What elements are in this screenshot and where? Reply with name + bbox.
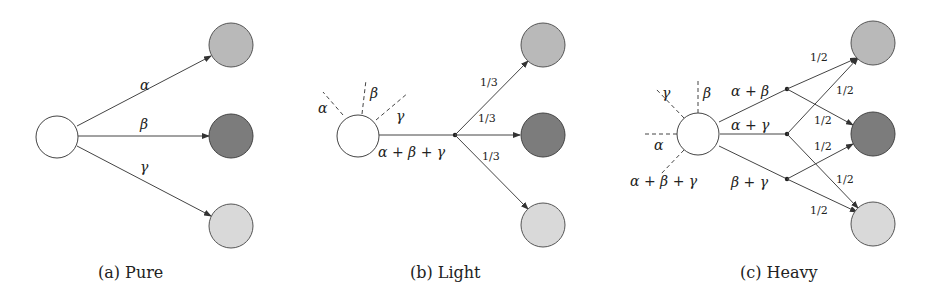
target-node-3 [521, 203, 565, 247]
merged-label: α + β + γ [378, 144, 446, 160]
panel-heavy: γ β α α + β + γ α + β α + γ β + γ 1/2 1/… [630, 21, 895, 282]
split-edge-3 [455, 135, 528, 209]
target-node-3 [851, 202, 895, 246]
split-label-4: 1/2 [814, 140, 832, 153]
dashed-in-beta [362, 80, 366, 114]
source-node [36, 116, 78, 158]
source-node [337, 115, 379, 157]
split-label-2: 1/2 [836, 84, 854, 97]
panel-pure: α β γ (a) Pure [36, 23, 253, 282]
caption-pure: (a) Pure [98, 263, 163, 282]
diagram-canvas: α β γ (a) Pure α β γ α + β + γ 1/3 1/3 1… [0, 0, 934, 308]
merged-label-bg: β + γ [730, 174, 769, 190]
target-node-3 [209, 204, 253, 248]
split-label-6: 1/2 [810, 204, 828, 217]
target-node-1 [209, 23, 253, 67]
dashed-label-gamma: γ [662, 85, 671, 101]
source-node [677, 113, 719, 155]
split-label-1: 1/2 [810, 51, 828, 64]
merged-label-ab: α + β [731, 83, 769, 99]
split-label-2: 1/3 [478, 112, 496, 125]
dashed-label-beta: β [702, 85, 711, 101]
split-label-1: 1/3 [480, 76, 498, 89]
dashed-label-alpha: α [654, 137, 664, 153]
edge-label-alpha: α [140, 77, 150, 93]
target-node-1 [851, 21, 895, 65]
target-node-2 [851, 112, 895, 156]
caption-light: (b) Light [410, 263, 481, 282]
edge-label-gamma: γ [140, 159, 149, 175]
dashed-label-beta: β [369, 85, 378, 101]
panel-light: α β γ α + β + γ 1/3 1/3 1/3 (b) Light [318, 23, 565, 282]
dashed-label-alpha: α [318, 100, 328, 116]
edge-label-beta: β [139, 116, 148, 132]
dashed-label-gamma: γ [396, 108, 405, 124]
edge-gamma [77, 146, 211, 216]
target-node-2 [521, 113, 565, 157]
dashed-label-all: α + β + γ [630, 173, 698, 189]
caption-heavy: (c) Heavy [740, 263, 818, 282]
dashed-in-all [661, 150, 684, 174]
split-label-5: 1/2 [836, 173, 854, 186]
split-label-3: 1/3 [482, 150, 500, 163]
merged-label-ag: α + γ [731, 117, 770, 133]
target-node-2 [209, 114, 253, 158]
target-node-1 [521, 23, 565, 67]
split-label-3: 1/2 [814, 114, 832, 127]
